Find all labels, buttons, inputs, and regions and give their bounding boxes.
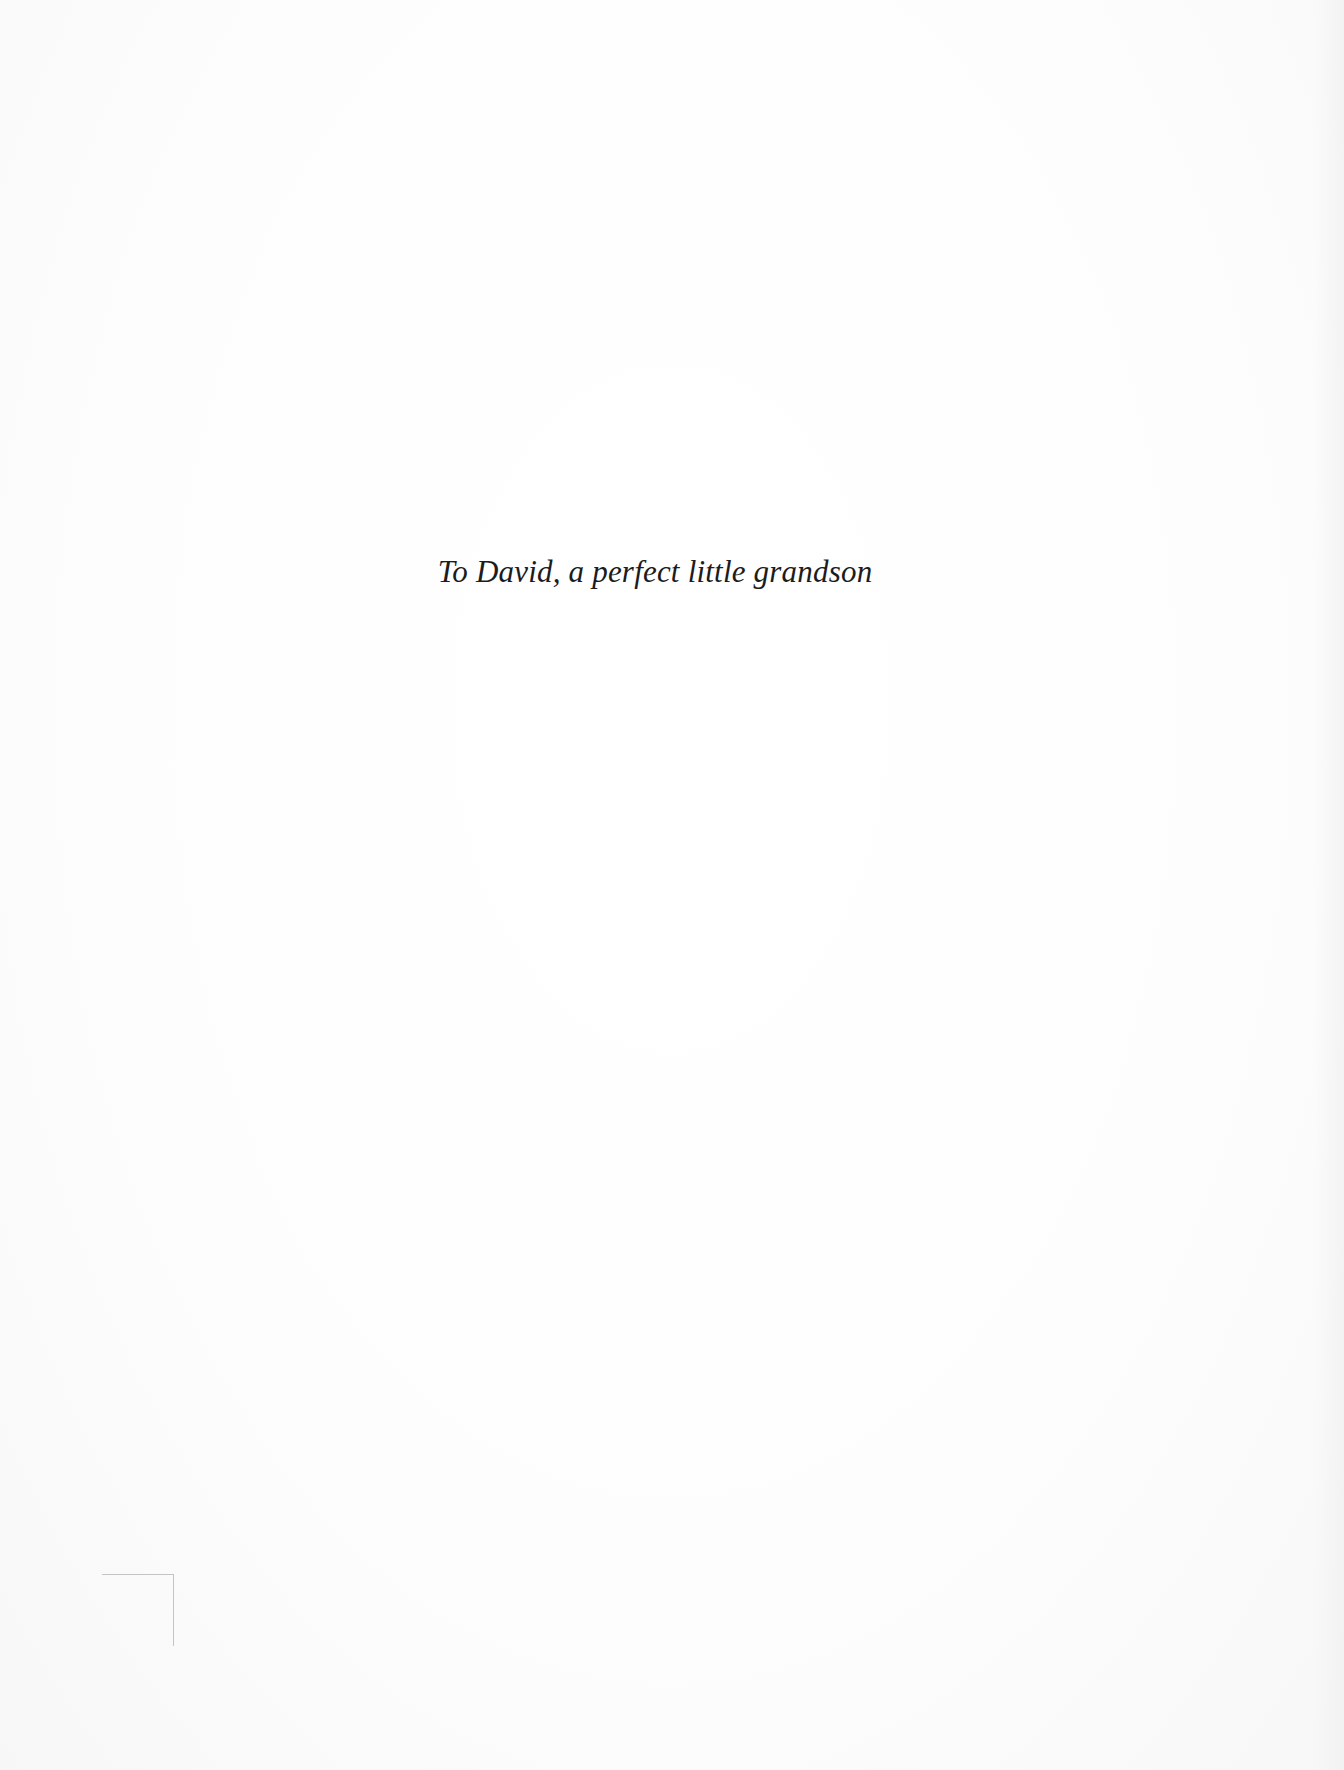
crop-mark-corner xyxy=(102,1574,174,1646)
dedication-text: To David, a perfect little grandson xyxy=(0,554,1310,590)
book-page: To David, a perfect little grandson xyxy=(0,0,1344,1770)
page-edge-shadow xyxy=(1314,0,1344,1770)
